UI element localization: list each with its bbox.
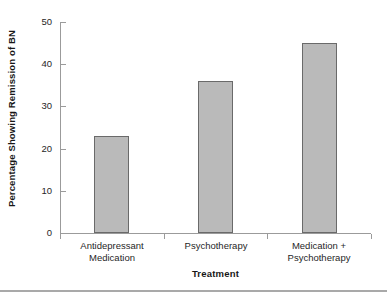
category-label-line1: Psychotherapy [185, 240, 248, 251]
y-axis-tick [61, 233, 66, 234]
bar [198, 81, 233, 233]
y-axis-line [60, 22, 61, 234]
x-axis-tick [267, 234, 268, 239]
category-label-line2: Psychotherapy [267, 252, 371, 264]
y-axis-tick-label: 0 [12, 227, 52, 238]
x-axis-line [60, 233, 371, 234]
x-axis-title: Treatment [60, 268, 371, 279]
x-axis-tick [60, 234, 61, 239]
x-axis-category-label: Medication + Psychotherapy [267, 240, 371, 263]
y-axis-tick [61, 64, 66, 65]
bar-chart-figure: Percentage Showing Remission of BN 0 10 … [0, 0, 387, 302]
bottom-divider [0, 290, 387, 292]
y-axis-tick-label: 10 [12, 185, 52, 196]
x-axis-category-label: Antidepressant Medication [60, 240, 164, 263]
category-label-line2: Medication [60, 252, 164, 264]
x-axis-tick [371, 234, 372, 239]
y-axis-title: Percentage Showing Remission of BN [0, 0, 24, 236]
y-axis-title-text: Percentage Showing Remission of BN [7, 29, 18, 206]
category-label-line1: Antidepressant [80, 240, 143, 251]
y-axis-tick-label: 40 [12, 58, 52, 69]
y-axis-tick [61, 191, 66, 192]
bar [302, 43, 337, 233]
y-axis-tick-label: 50 [12, 16, 52, 27]
x-axis-category-label: Psychotherapy [164, 240, 268, 252]
y-axis-tick [61, 22, 66, 23]
y-axis-tick-label: 20 [12, 143, 52, 154]
y-axis-tick [61, 106, 66, 107]
category-label-line1: Medication + [292, 240, 346, 251]
x-axis-tick [164, 234, 165, 239]
y-axis-tick-label: 30 [12, 100, 52, 111]
y-axis-tick [61, 149, 66, 150]
bar [94, 136, 129, 233]
